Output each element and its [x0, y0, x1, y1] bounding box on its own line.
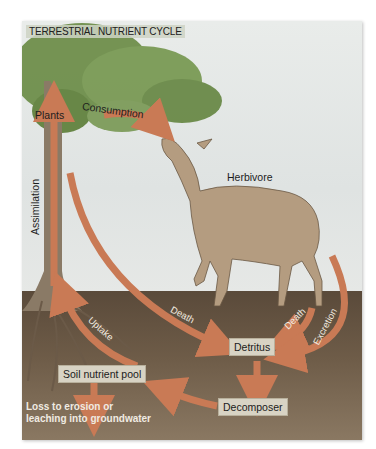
- decomposer-to-pool-arrow: [162, 389, 217, 406]
- assimilation-label: Assimilation: [29, 179, 41, 235]
- detritus-box: Detritus: [229, 338, 275, 356]
- plants-label: Plants: [35, 109, 64, 121]
- soil-nutrient-pool-box: Soil nutrient pool: [58, 365, 146, 383]
- loss-note-line2: leaching into groundwater: [26, 413, 151, 425]
- herbivore-deer: [162, 138, 322, 306]
- herbivore-label: Herbivore: [227, 171, 273, 183]
- nutrient-cycle-diagram: TERRESTRIAL NUTRIENT CYCLE Plants Consum…: [22, 21, 362, 440]
- loss-note-line1: Loss to erosion or: [26, 401, 151, 413]
- decomposer-box: Decomposer: [218, 398, 288, 416]
- loss-note: Loss to erosion or leaching into groundw…: [26, 401, 151, 425]
- diagram-title: TERRESTRIAL NUTRIENT CYCLE: [26, 25, 185, 38]
